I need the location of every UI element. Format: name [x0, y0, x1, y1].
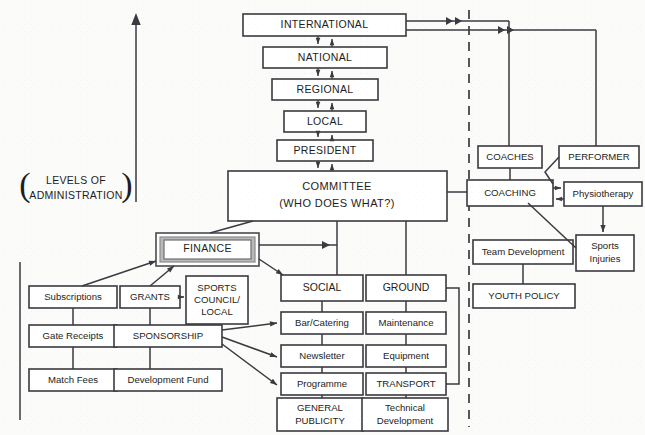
social-label: SOCIAL	[303, 281, 342, 293]
income-column-links	[73, 261, 156, 369]
income-box-gate-receipts[interactable]: Gate Receipts	[29, 325, 117, 347]
level-box-national[interactable]: NATIONAL	[263, 47, 387, 68]
level-box-international[interactable]: INTERNATIONAL	[243, 14, 406, 36]
funding-label-sponsorship: SPONSORSHIP	[133, 330, 203, 341]
levels-of-administration-label: ( ) LEVELS OF ADMINISTRATION	[19, 166, 132, 204]
finance-outgoing-links	[259, 241, 337, 275]
international-to-coaching-routes	[406, 17, 596, 161]
level-label-national: NATIONAL	[298, 51, 353, 63]
income-box-subscriptions[interactable]: Subscriptions	[29, 286, 117, 308]
committee-label-line2: (WHO DOES WHAT?)	[279, 197, 395, 209]
sponsorship-fanout-links	[222, 323, 277, 385]
committee-label-line1: COMMITTEE	[302, 180, 372, 192]
sports-injuries-box[interactable]: Sports Injuries	[576, 235, 634, 271]
general-publicity-line1: GENERAL	[297, 402, 344, 413]
levels-label-line2: ADMINISTRATION	[29, 189, 122, 201]
sports-council-line2: COUNCIL/	[194, 294, 240, 305]
paren-close-glyph: )	[121, 166, 132, 204]
income-label-match-fees: Match Fees	[48, 374, 98, 385]
social-box-bar-catering[interactable]: Bar/Catering	[281, 312, 363, 334]
physiotherapy-box[interactable]: Physiotherapy	[564, 182, 642, 206]
income-label-gate-receipts: Gate Receipts	[43, 330, 104, 341]
level-label-president: PRESIDENT	[293, 144, 356, 156]
income-label-subscriptions: Subscriptions	[44, 291, 102, 302]
social-label-programme: Programme	[297, 378, 347, 389]
income-box-match-fees[interactable]: Match Fees	[29, 369, 117, 391]
social-box-newsletter[interactable]: Newsletter	[281, 345, 363, 367]
social-label-bar-catering: Bar/Catering	[295, 317, 349, 328]
physiotherapy-label: Physiotherapy	[573, 188, 634, 199]
ground-box-transport[interactable]: TRANSPORT	[366, 373, 446, 395]
youth-policy-label: YOUTH POLICY	[488, 290, 560, 301]
levels-of-administration-arrow	[131, 13, 140, 202]
coaching-box[interactable]: COACHING	[467, 180, 553, 206]
ground-box-technical-development[interactable]: Technical Development	[362, 398, 448, 431]
technical-development-line1: Technical	[385, 402, 425, 413]
sports-injuries-line2: Injuries	[590, 253, 621, 264]
social-box-general-publicity[interactable]: GENERAL PUBLICITY	[277, 398, 363, 431]
level-label-regional: REGIONAL	[296, 83, 353, 95]
finance-label: FINANCE	[183, 242, 232, 254]
level-label-local: LOCAL	[307, 115, 343, 127]
level-box-local[interactable]: LOCAL	[284, 111, 366, 132]
sports-injuries-line1: Sports	[591, 240, 619, 251]
level-box-regional[interactable]: REGIONAL	[272, 79, 378, 100]
performer-label: PERFORMER	[568, 151, 629, 162]
team-development-label: Team Development	[482, 246, 565, 257]
performer-box[interactable]: PERFORMER	[559, 146, 639, 168]
level-label-international: INTERNATIONAL	[281, 18, 369, 30]
funding-column-links	[150, 266, 184, 369]
ground-box-equipment[interactable]: Equipment	[366, 345, 446, 367]
funding-box-development-fund[interactable]: Development Fund	[114, 369, 222, 391]
ground-label-maintenance: Maintenance	[379, 317, 434, 328]
finance-box[interactable]: FINANCE	[156, 233, 259, 266]
social-label-newsletter: Newsletter	[299, 350, 345, 361]
ground-label-equipment: Equipment	[383, 350, 429, 361]
funding-box-grants[interactable]: GRANTS	[120, 286, 180, 308]
sports-council-line1: SPORTS	[197, 282, 236, 293]
coaching-label: COACHING	[484, 187, 536, 198]
technical-development-line2: Development	[377, 415, 434, 426]
social-box-programme[interactable]: Programme	[281, 373, 363, 395]
ground-label-transport: TRANSPORT	[377, 378, 436, 389]
level-box-president[interactable]: PRESIDENT	[277, 140, 373, 161]
committee-box[interactable]: COMMITTEE (WHO DOES WHAT?)	[228, 171, 447, 221]
funding-label-development-fund: Development Fund	[127, 374, 208, 385]
ground-box[interactable]: GROUND	[366, 275, 446, 301]
coaches-label: COACHES	[486, 151, 533, 162]
diagram-canvas: ( ) LEVELS OF ADMINISTRATION INTERNATION…	[0, 0, 645, 435]
funding-label-grants: GRANTS	[130, 291, 170, 302]
ground-box-maintenance[interactable]: Maintenance	[366, 312, 446, 334]
general-publicity-line2: PUBLICITY	[295, 415, 345, 426]
sports-council-box[interactable]: SPORTS COUNCIL/ LOCAL	[186, 276, 248, 324]
ground-label: GROUND	[383, 281, 430, 293]
funding-box-sponsorship[interactable]: SPONSORSHIP	[114, 325, 222, 347]
youth-policy-box[interactable]: YOUTH POLICY	[473, 284, 575, 308]
sports-council-line3: LOCAL	[201, 306, 233, 317]
team-development-box[interactable]: Team Development	[473, 240, 573, 264]
social-box[interactable]: SOCIAL	[281, 275, 363, 301]
coaches-box[interactable]: COACHES	[478, 146, 542, 168]
levels-label-line1: LEVELS OF	[46, 174, 106, 186]
